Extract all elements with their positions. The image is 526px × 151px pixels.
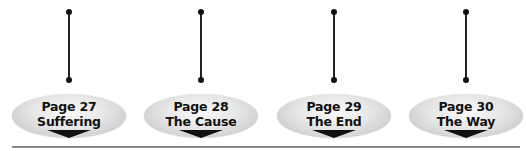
chevron-down-icon (444, 130, 488, 138)
page-number: Page 28 (141, 99, 261, 114)
page-title: The Cause (141, 114, 261, 129)
chevron-down-icon (179, 130, 223, 138)
node-the-end: Page 29 The End (274, 0, 394, 151)
connector-line (465, 12, 467, 80)
divider (12, 146, 520, 148)
page-title: The Way (406, 114, 526, 129)
connector-line (68, 12, 70, 80)
dot-icon (66, 77, 72, 83)
connector-line (333, 12, 335, 80)
dot-icon (198, 77, 204, 83)
node-the-way: Page 30 The Way (406, 0, 526, 151)
page-title: Suffering (9, 114, 129, 129)
page-number: Page 27 (9, 99, 129, 114)
page-number: Page 30 (406, 99, 526, 114)
connector-line (200, 12, 202, 80)
dot-icon (331, 77, 337, 83)
dot-icon (463, 9, 469, 15)
dot-icon (66, 9, 72, 15)
dot-icon (463, 77, 469, 83)
page-title: The End (274, 114, 394, 129)
chevron-down-icon (312, 130, 356, 138)
chevron-down-icon (47, 130, 91, 138)
page-number: Page 29 (274, 99, 394, 114)
dot-icon (331, 9, 337, 15)
node-suffering: Page 27 Suffering (9, 0, 129, 151)
dot-icon (198, 9, 204, 15)
node-the-cause: Page 28 The Cause (141, 0, 261, 151)
